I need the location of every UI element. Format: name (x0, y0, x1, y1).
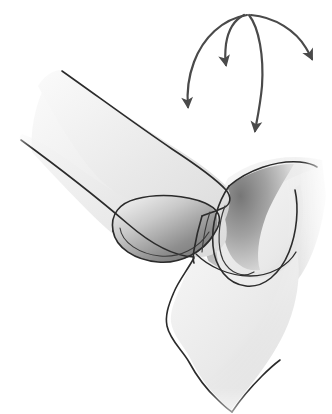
wipe-bottom (0, 388, 332, 414)
wipe-right (300, 140, 332, 414)
figure-container: Anatomical line illustration of interloc… (0, 0, 332, 414)
figure-title: Anatomical line illustration of interloc… (2, 5, 163, 11)
illustration-canvas: Anatomical line illustration of interloc… (0, 0, 332, 414)
wipe-left (0, 0, 34, 414)
